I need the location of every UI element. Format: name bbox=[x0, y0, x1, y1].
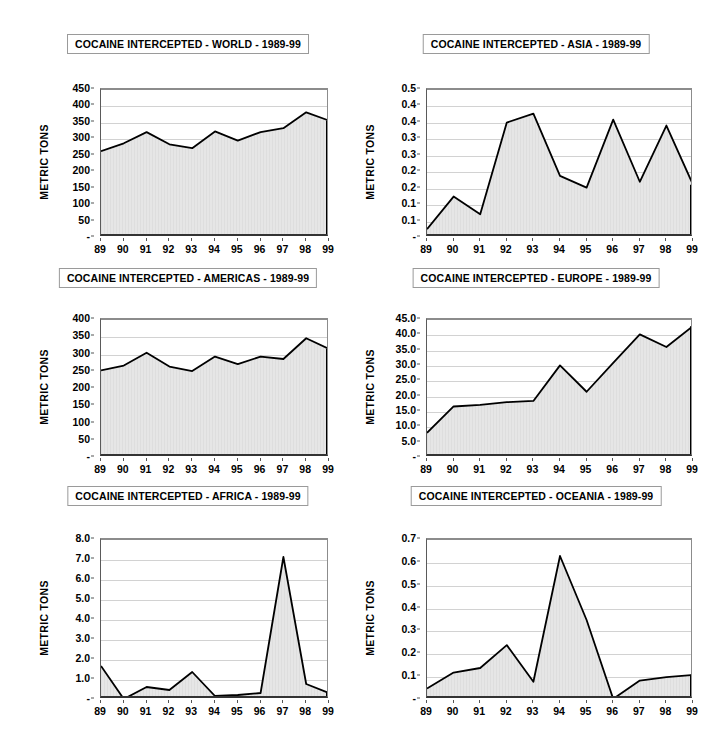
x-tick-label: 96 bbox=[606, 464, 618, 475]
x-tick-label: 91 bbox=[140, 706, 152, 717]
x-tick-label: 98 bbox=[299, 464, 311, 475]
x-tick-mark bbox=[168, 458, 169, 461]
x-tick-label: 99 bbox=[322, 464, 334, 475]
y-tick-label: 50 bbox=[78, 215, 90, 225]
y-axis-label-europe: METRIC TONS bbox=[362, 318, 378, 456]
x-tick-mark bbox=[586, 700, 587, 703]
y-tick-label: 0.3 bbox=[401, 149, 416, 159]
x-tick-label: 99 bbox=[322, 706, 334, 717]
x-tick-mark bbox=[559, 238, 560, 241]
x-tick-label: 90 bbox=[117, 464, 129, 475]
area-fill bbox=[101, 557, 328, 698]
x-axis-ticks-oceania: 8990919293949596979899 bbox=[426, 700, 692, 720]
x-tick-label: 97 bbox=[633, 464, 645, 475]
y-tick-mark bbox=[91, 698, 94, 699]
area-series-world bbox=[101, 90, 328, 236]
x-axis-ticks-asia: 8990919293949596979899 bbox=[426, 238, 692, 258]
y-tick-mark bbox=[417, 120, 420, 121]
x-tick-mark bbox=[506, 458, 507, 461]
x-tick-label: 89 bbox=[94, 464, 106, 475]
y-tick-label: 0.4 bbox=[401, 602, 416, 612]
y-tick-mark bbox=[91, 137, 94, 138]
x-tick-mark bbox=[532, 238, 533, 241]
y-tick-label: 0.2 bbox=[401, 647, 416, 657]
y-tick-mark bbox=[91, 352, 94, 353]
y-tick-label: - bbox=[413, 451, 417, 461]
y-tick-label: 0.5 bbox=[401, 579, 416, 589]
y-tick-mark bbox=[91, 404, 94, 405]
x-tick-label: 95 bbox=[580, 244, 592, 255]
x-tick-label: 91 bbox=[140, 244, 152, 255]
x-tick-label: 92 bbox=[163, 464, 175, 475]
x-tick-mark bbox=[426, 238, 427, 241]
y-tick-label: 400 bbox=[72, 99, 90, 109]
y-tick-mark bbox=[91, 203, 94, 204]
x-tick-label: 93 bbox=[185, 244, 197, 255]
x-tick-label: 98 bbox=[660, 464, 672, 475]
plot-area-asia bbox=[426, 88, 692, 236]
x-tick-label: 95 bbox=[231, 244, 243, 255]
x-tick-label: 96 bbox=[254, 244, 266, 255]
chart-title-europe: COCAINE INTERCEPTED - EUROPE - 1989-99 bbox=[413, 268, 660, 288]
x-tick-label: 97 bbox=[633, 244, 645, 255]
y-tick-mark bbox=[417, 318, 420, 319]
y-axis-ticks-africa: 8.07.06.05.04.03.02.01.0- bbox=[60, 538, 94, 698]
x-tick-label: 90 bbox=[447, 244, 459, 255]
y-tick-mark bbox=[91, 104, 94, 105]
y-tick-mark bbox=[417, 203, 420, 204]
y-axis-ticks-europe: 45.040.035.030.025.020.015.010.05.0- bbox=[386, 318, 420, 456]
y-tick-label: 45.0 bbox=[396, 313, 416, 323]
chart-title-asia: COCAINE INTERCEPTED - ASIA - 1989-99 bbox=[423, 34, 650, 54]
chart-grid: COCAINE INTERCEPTED - WORLD - 1989-99MET… bbox=[0, 0, 712, 752]
y-tick-label: - bbox=[87, 231, 91, 241]
x-tick-label: 95 bbox=[231, 706, 243, 717]
y-tick-mark bbox=[417, 379, 420, 380]
y-axis-label-text: METRIC TONS bbox=[38, 580, 50, 655]
y-tick-label: 40.0 bbox=[396, 328, 416, 338]
y-tick-mark bbox=[91, 578, 94, 579]
x-tick-label: 89 bbox=[94, 244, 106, 255]
x-tick-mark bbox=[237, 700, 238, 703]
x-tick-mark bbox=[123, 458, 124, 461]
x-tick-label: 92 bbox=[500, 464, 512, 475]
plot-area-europe bbox=[426, 318, 692, 456]
y-tick-label: 200 bbox=[72, 382, 90, 392]
x-tick-mark bbox=[665, 700, 666, 703]
y-tick-label: 250 bbox=[72, 365, 90, 375]
x-tick-mark bbox=[692, 458, 693, 461]
y-tick-mark bbox=[91, 421, 94, 422]
y-tick-mark bbox=[91, 153, 94, 154]
x-tick-label: 96 bbox=[606, 244, 618, 255]
y-tick-mark bbox=[91, 658, 94, 659]
x-tick-mark bbox=[426, 700, 427, 703]
x-tick-label: 95 bbox=[580, 706, 592, 717]
y-tick-label: 0.1 bbox=[401, 215, 416, 225]
chart-title-oceania: COCAINE INTERCEPTED - OCEANIA - 1989-99 bbox=[411, 486, 662, 506]
x-tick-mark bbox=[305, 238, 306, 241]
y-axis-label-asia: METRIC TONS bbox=[362, 88, 378, 236]
x-tick-label: 94 bbox=[553, 464, 565, 475]
x-tick-label: 94 bbox=[208, 706, 220, 717]
x-tick-label: 98 bbox=[660, 706, 672, 717]
area-series-oceania bbox=[427, 540, 692, 698]
y-tick-mark bbox=[417, 606, 420, 607]
x-axis-ticks-americas: 8990919293949596979899 bbox=[100, 458, 328, 478]
x-tick-mark bbox=[260, 458, 261, 461]
y-tick-mark bbox=[417, 629, 420, 630]
y-tick-label: 0.1 bbox=[401, 198, 416, 208]
area-fill bbox=[427, 326, 692, 456]
x-tick-label: 92 bbox=[500, 244, 512, 255]
x-tick-label: 96 bbox=[254, 706, 266, 717]
x-tick-mark bbox=[100, 458, 101, 461]
y-tick-label: 7.0 bbox=[75, 553, 90, 563]
area-series-americas bbox=[101, 320, 328, 456]
y-tick-label: 30.0 bbox=[396, 359, 416, 369]
x-tick-mark bbox=[506, 700, 507, 703]
x-tick-mark bbox=[237, 458, 238, 461]
y-tick-label: 0.1 bbox=[401, 670, 416, 680]
chart-title-africa: COCAINE INTERCEPTED - AFRICA - 1989-99 bbox=[67, 486, 308, 506]
x-tick-label: 97 bbox=[277, 706, 289, 717]
x-tick-label: 92 bbox=[500, 706, 512, 717]
x-tick-mark bbox=[612, 238, 613, 241]
x-tick-mark bbox=[453, 458, 454, 461]
